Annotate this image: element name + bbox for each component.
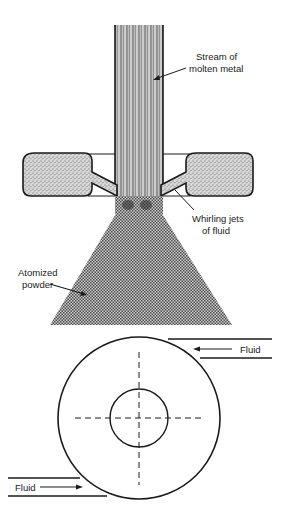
svg-text:Stream of: Stream of (196, 51, 238, 62)
arrow-right-icon (76, 485, 83, 490)
label-stream: Stream of molten metal (153, 51, 243, 80)
fluid-inlet-lower-left: Fluid (8, 478, 107, 496)
arrow-left-icon (193, 347, 200, 352)
svg-text:Fluid: Fluid (15, 482, 36, 493)
svg-text:Atomized: Atomized (18, 267, 58, 278)
svg-text:Whirling jets: Whirling jets (192, 213, 244, 224)
side-view: Stream of molten metal Whirling jets of … (18, 25, 253, 325)
svg-text:Fluid: Fluid (240, 344, 261, 355)
right-fluid-chamber (161, 153, 253, 196)
atomization-diagram: Stream of molten metal Whirling jets of … (0, 0, 288, 522)
label-jets: Whirling jets of fluid (175, 190, 244, 236)
svg-text:powder: powder (22, 279, 53, 290)
svg-text:molten metal: molten metal (189, 63, 243, 74)
top-view: Fluid Fluid (8, 337, 272, 499)
fluid-inlet-upper-right: Fluid (168, 339, 272, 358)
left-fluid-chamber (23, 153, 117, 196)
svg-text:of fluid: of fluid (202, 225, 230, 236)
molten-metal-stream (115, 25, 163, 200)
